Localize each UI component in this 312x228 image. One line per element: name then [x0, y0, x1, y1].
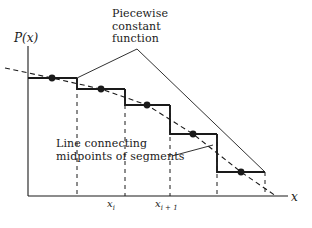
- x-tick-label-xi-plus-1: xi + 1: [155, 198, 178, 212]
- x-axis-label: x: [291, 190, 298, 204]
- midpoint-marker-1: [49, 75, 56, 82]
- figure-canvas: P(x) x xi xi + 1 Piecewise constant func…: [0, 0, 312, 228]
- midpoint-marker-2: [98, 86, 105, 93]
- annotation-piecewise-constant-function: Piecewise constant function: [112, 8, 168, 46]
- midpoint-marker-4: [190, 131, 197, 138]
- figure-vector-group: [5, 46, 288, 196]
- midpoint-marker-3: [144, 102, 151, 109]
- x-tick-label-xi: xi: [107, 198, 115, 212]
- midpoint-connecting-dashed-line: [5, 68, 276, 196]
- annotation-line-connecting-midpoints: Line connecting midpoints of segments: [56, 138, 184, 163]
- y-axis-label: P(x): [14, 31, 38, 45]
- midpoint-marker-5: [238, 169, 245, 176]
